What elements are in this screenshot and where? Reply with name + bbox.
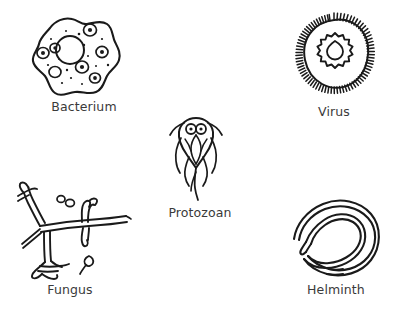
fungus-illustration [10, 178, 134, 282]
bacterium-illustration [22, 12, 130, 100]
pathogen-diagram: Bacterium [0, 0, 395, 314]
protozoan-illustration [160, 112, 234, 204]
virus-label: Virus [296, 106, 372, 119]
bacterium-label: Bacterium [0, 101, 168, 114]
virus-illustration [292, 10, 378, 98]
protozoan-label: Protozoan [140, 207, 260, 220]
helminth-illustration [282, 192, 386, 282]
fungus-label: Fungus [0, 284, 140, 297]
helminth-label: Helminth [286, 284, 386, 297]
